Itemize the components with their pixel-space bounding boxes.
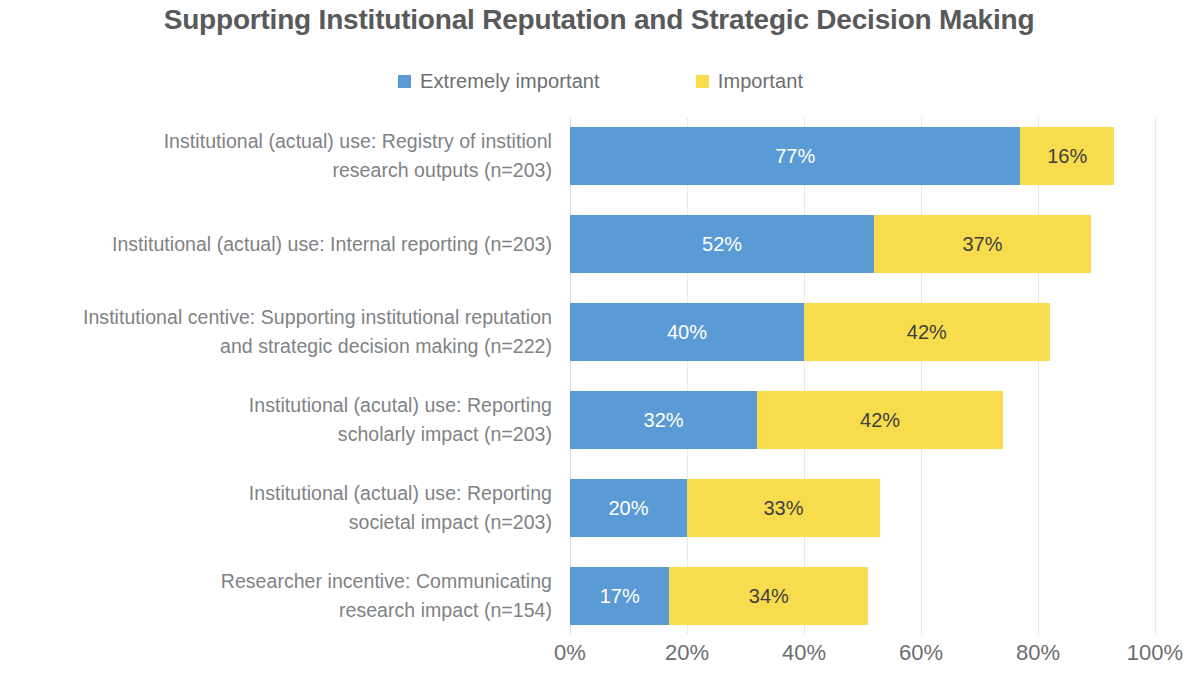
category-label-line: research outputs (n=203) — [0, 156, 552, 185]
stacked-bar[interactable]: 77%16% — [570, 127, 1114, 185]
chart-title: Supporting Institutional Reputation and … — [0, 4, 1198, 36]
bar-segment-important[interactable]: 42% — [804, 303, 1050, 361]
category-label-line: Institutional (acutal) use: Reporting — [0, 391, 552, 420]
x-tick-label: 0% — [554, 640, 586, 666]
legend-swatch-yellow-icon — [696, 75, 709, 88]
category-label-line: scholarly impact (n=203) — [0, 420, 552, 449]
stacked-bar[interactable]: 40%42% — [570, 303, 1050, 361]
stacked-bar[interactable]: 17%34% — [570, 567, 868, 625]
bar-segment-extremely-important[interactable]: 20% — [570, 479, 687, 537]
bar-row: 17%34% — [570, 567, 1155, 625]
category-label-line: Researcher incentive: Communicating — [0, 567, 552, 596]
x-tick-label: 60% — [899, 640, 943, 666]
x-tick-label: 20% — [665, 640, 709, 666]
bar-row: 52%37% — [570, 215, 1155, 273]
plot-area: 77%16%52%37%40%42%32%42%20%33%17%34% — [570, 118, 1155, 634]
bar-segment-important[interactable]: 42% — [757, 391, 1003, 449]
x-tick-label: 40% — [782, 640, 826, 666]
category-label: Institutional (actual) use: Reportingsoc… — [0, 479, 552, 537]
legend-item-extremely-important[interactable]: Extremely important — [398, 68, 600, 94]
bar-rows: 77%16%52%37%40%42%32%42%20%33%17%34% — [570, 118, 1155, 634]
stacked-bar[interactable]: 52%37% — [570, 215, 1091, 273]
category-label: Researcher incentive: Communicatingresea… — [0, 567, 552, 625]
bar-segment-extremely-important[interactable]: 52% — [570, 215, 874, 273]
stacked-bar[interactable]: 32%42% — [570, 391, 1003, 449]
bar-segment-important[interactable]: 33% — [687, 479, 880, 537]
x-tick-label: 100% — [1127, 640, 1183, 666]
category-label-line: Institutional (actual) use: Internal rep… — [0, 230, 552, 259]
gridline-100pct — [1155, 118, 1156, 634]
bar-segment-important[interactable]: 16% — [1020, 127, 1114, 185]
stacked-bar[interactable]: 20%33% — [570, 479, 880, 537]
legend-item-important[interactable]: Important — [696, 68, 803, 94]
legend-label-important: Important — [718, 70, 803, 93]
category-label: Institutional (actual) use: Registry of … — [0, 127, 552, 185]
category-label-line: Institutional (actual) use: Registry of … — [0, 127, 552, 156]
category-label-line: research impact (n=154) — [0, 596, 552, 625]
legend-label-extremely-important: Extremely important — [420, 70, 600, 93]
x-axis-ticks: 0%20%40%60%80%100% — [570, 640, 1155, 680]
category-label: Institutional (acutal) use: Reportingsch… — [0, 391, 552, 449]
category-label-line: societal impact (n=203) — [0, 508, 552, 537]
category-label-line: and strategic decision making (n=222) — [0, 332, 552, 361]
bar-segment-extremely-important[interactable]: 40% — [570, 303, 804, 361]
bar-segment-extremely-important[interactable]: 17% — [570, 567, 669, 625]
bar-row: 40%42% — [570, 303, 1155, 361]
category-label: Institutional centive: Supporting instit… — [0, 303, 552, 361]
bar-segment-extremely-important[interactable]: 77% — [570, 127, 1020, 185]
x-tick-label: 80% — [1016, 640, 1060, 666]
legend-swatch-blue-icon — [398, 75, 411, 88]
bar-segment-important[interactable]: 37% — [874, 215, 1090, 273]
chart-legend: Extremely important Important — [398, 68, 803, 94]
bar-segment-extremely-important[interactable]: 32% — [570, 391, 757, 449]
bar-row: 32%42% — [570, 391, 1155, 449]
category-axis-labels: Institutional (actual) use: Registry of … — [0, 118, 552, 634]
category-label-line: Institutional (actual) use: Reporting — [0, 479, 552, 508]
chart-container: Supporting Institutional Reputation and … — [0, 0, 1198, 693]
bar-row: 20%33% — [570, 479, 1155, 537]
bar-segment-important[interactable]: 34% — [669, 567, 868, 625]
bar-row: 77%16% — [570, 127, 1155, 185]
category-label-line: Institutional centive: Supporting instit… — [0, 303, 552, 332]
category-label: Institutional (actual) use: Internal rep… — [0, 230, 552, 259]
